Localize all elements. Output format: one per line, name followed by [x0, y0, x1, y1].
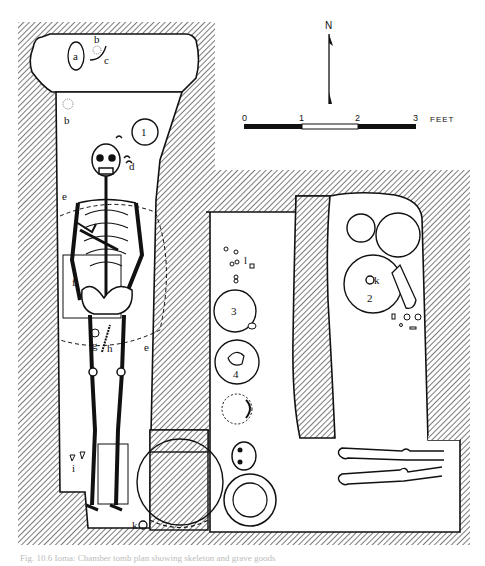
- label-c: c: [104, 54, 109, 66]
- scale-tick-0: 0: [242, 113, 248, 123]
- right-chamber: [206, 193, 460, 532]
- label-h: h: [107, 342, 113, 354]
- scale-tick-1: 1: [299, 113, 305, 123]
- label-e-bottom: e: [144, 341, 149, 353]
- figure-caption: Fig. 10.6 Ioma: Chamber tomb plan showin…: [20, 553, 480, 563]
- label-vessel-1: 1: [141, 126, 147, 138]
- label-g: g: [92, 339, 98, 351]
- scale-tick-2: 2: [355, 113, 361, 123]
- label-vessel-4: 4: [233, 368, 239, 380]
- label-vessel-3: 3: [231, 305, 237, 317]
- label-e-top: e: [62, 190, 67, 202]
- north-label: N: [325, 20, 333, 31]
- label-i: i: [72, 462, 75, 474]
- label-k-bottom: k: [132, 519, 138, 531]
- skull-2-icon: [232, 442, 256, 470]
- scale-bar: 0 1 2 3 FEET: [242, 113, 454, 129]
- scale-unit: FEET: [430, 115, 454, 124]
- label-b-left: b: [64, 114, 70, 126]
- label-l: l: [244, 254, 247, 266]
- scale-tick-3: 3: [413, 113, 419, 123]
- label-f: f: [72, 276, 76, 288]
- label-d: d: [129, 160, 135, 172]
- label-a: a: [73, 50, 78, 62]
- north-arrow: N: [325, 20, 333, 104]
- label-vessel-2: 2: [367, 292, 373, 304]
- upper-niche: [30, 34, 198, 92]
- label-k-vessel: k: [374, 274, 380, 286]
- label-b-top: b: [94, 33, 100, 45]
- burial-plan-diagram: a b c b d e e f g h i k k l 1 2 3 4 N 0 …: [0, 0, 485, 566]
